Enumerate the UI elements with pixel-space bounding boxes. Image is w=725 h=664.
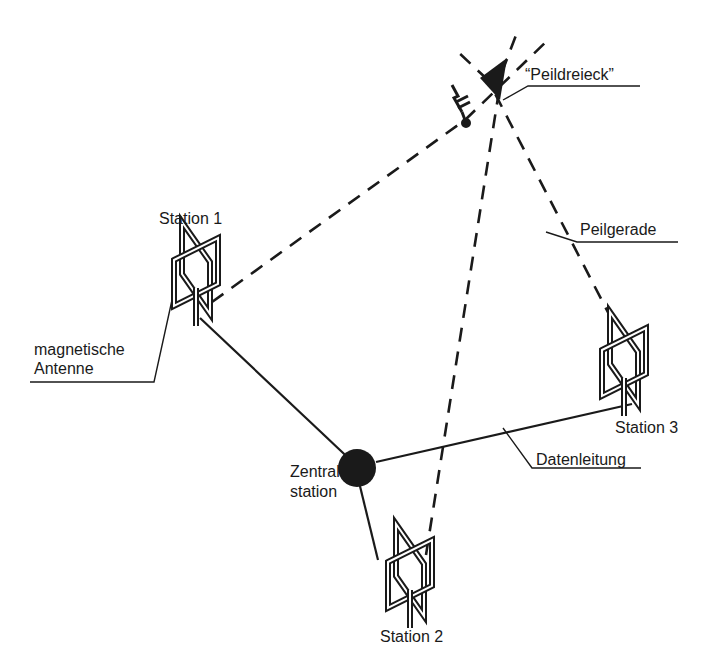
station-1-antenna-icon <box>174 222 218 326</box>
station-3-label: Station 3 <box>615 419 678 436</box>
direction-finding-diagram: “Peildreieck” Peilgerade Station 1 magne… <box>0 0 725 664</box>
lightning-strike-icon <box>452 85 470 127</box>
antenna-label-line1: magnetische <box>34 341 125 358</box>
antenna-label-line2: Antenne <box>34 360 94 377</box>
central-label-line1: Zentral- <box>290 463 345 480</box>
peil-triangle <box>480 58 507 100</box>
leader-lines <box>30 86 678 468</box>
datenleitung-label: Datenleitung <box>536 451 626 468</box>
data-lines <box>200 318 632 560</box>
bearing-lines <box>212 30 612 555</box>
station-3-antenna-icon <box>602 312 646 416</box>
central-label-line2: station <box>290 483 337 500</box>
peildreieck-label: “Peildreieck” <box>525 66 614 83</box>
station-2-antenna-icon <box>388 524 432 628</box>
peilgerade-label: Peilgerade <box>580 221 657 238</box>
station-1-label: Station 1 <box>159 210 222 227</box>
station-2-label: Station 2 <box>380 628 443 645</box>
